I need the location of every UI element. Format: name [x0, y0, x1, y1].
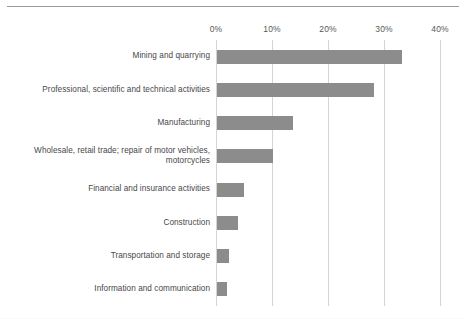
chart-rows: Mining and quarrying Professional, scien…	[0, 40, 466, 306]
bar-track	[217, 140, 273, 173]
bar-track	[217, 73, 374, 106]
bar-track	[217, 173, 244, 206]
chart-row: Mining and quarrying	[0, 40, 466, 73]
x-tick-label-40: 40%	[431, 24, 448, 34]
x-tick-label-0: 0%	[210, 24, 223, 34]
horizontal-bar-chart: 0% 10% 20% 30% 40% Mining and quarrying …	[0, 0, 466, 325]
chart-row: Information and communication	[0, 273, 466, 306]
top-divider-rule	[7, 6, 459, 7]
bar-wholesale-retail-trade-repair-of-motor-vehicles-motorcycles	[217, 149, 273, 163]
chart-row: Financial and insurance activities	[0, 173, 466, 206]
bar-transportation-and-storage	[217, 249, 229, 263]
chart-row: Construction	[0, 206, 466, 239]
bar-financial-and-insurance-activities	[217, 183, 244, 197]
bar-mining-and-quarrying	[217, 50, 402, 64]
bar-track	[217, 40, 402, 73]
category-label: Information and communication	[10, 284, 210, 295]
bar-track	[217, 107, 293, 140]
x-tick-label-20: 20%	[319, 24, 336, 34]
bar-track	[217, 240, 229, 273]
bar-construction	[217, 216, 238, 230]
chart-row: Transportation and storage	[0, 240, 466, 273]
x-tick-label-30: 30%	[375, 24, 392, 34]
chart-row: Manufacturing	[0, 107, 466, 140]
category-label: Professional, scientific and technical a…	[10, 85, 210, 96]
category-label: Manufacturing	[10, 118, 210, 129]
category-label: Mining and quarrying	[10, 51, 210, 62]
category-label: Wholesale, retail trade; repair of motor…	[10, 146, 210, 167]
category-label: Financial and insurance activities	[10, 184, 210, 195]
x-axis-tick-labels: 0% 10% 20% 30% 40%	[216, 24, 440, 36]
chart-row: Professional, scientific and technical a…	[0, 73, 466, 106]
chart-row: Wholesale, retail trade; repair of motor…	[0, 140, 466, 173]
bottom-edge	[0, 318, 466, 319]
x-tick-label-10: 10%	[263, 24, 280, 34]
bar-track	[217, 273, 227, 306]
bar-track	[217, 206, 238, 239]
category-label: Transportation and storage	[10, 251, 210, 262]
bar-professional-scientific-and-technical-activities	[217, 83, 374, 97]
bar-information-and-communication	[217, 282, 227, 296]
category-label: Construction	[10, 218, 210, 229]
bar-manufacturing	[217, 116, 293, 130]
